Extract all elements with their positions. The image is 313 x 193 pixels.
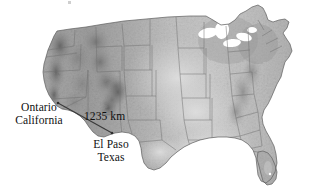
- scan-artifact: [68, 1, 71, 4]
- origin-city-label: Ontario California: [9, 101, 69, 127]
- origin-city-name: Ontario: [9, 101, 69, 114]
- map-figure: Ontario California 1235 km El Paso Texas: [0, 0, 313, 193]
- destination-city-label: El Paso Texas: [84, 138, 138, 164]
- destination-state-name: Texas: [84, 151, 138, 164]
- origin-state-name: California: [9, 114, 69, 127]
- map-landmass: [43, 5, 292, 185]
- distance-label: 1235 km: [84, 110, 125, 123]
- us-relief-map: [0, 0, 313, 193]
- destination-city-name: El Paso: [84, 138, 138, 151]
